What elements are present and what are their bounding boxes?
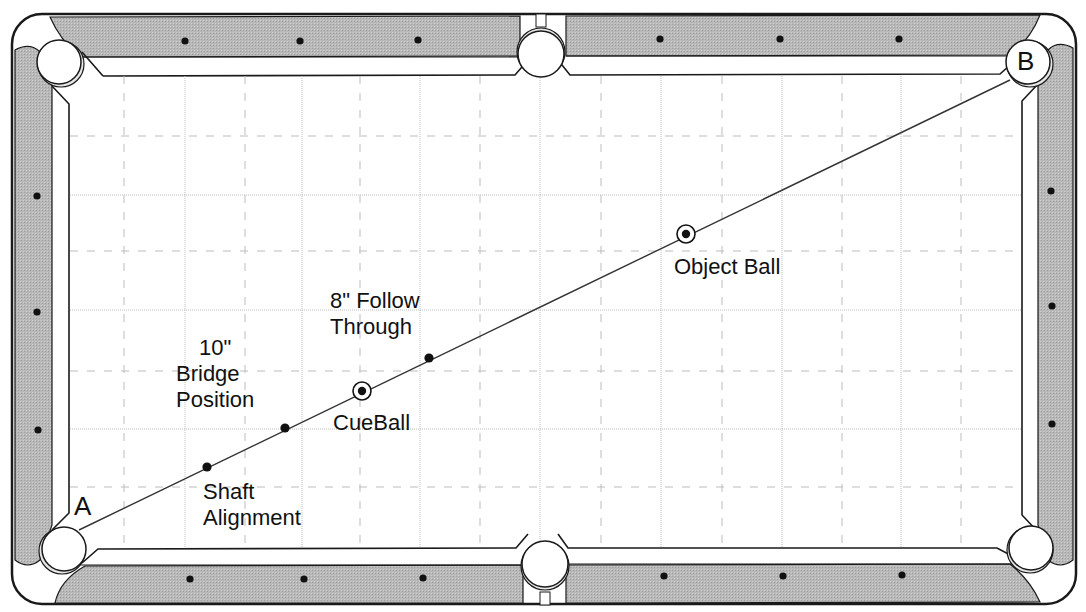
diamond-marker-icon xyxy=(186,575,193,582)
diamond-marker-icon xyxy=(33,308,40,315)
pool-table xyxy=(0,0,1086,612)
diamond-marker-icon xyxy=(300,575,307,582)
diamond-marker-icon xyxy=(296,37,303,44)
pocket-top-left xyxy=(37,40,84,87)
table-frame xyxy=(12,14,1076,604)
label-bridge-position: 10" Bridge Position xyxy=(176,335,254,413)
label-shaft-alignment: Shaft Alignment xyxy=(203,479,301,531)
diamond-marker-icon xyxy=(776,35,783,42)
rail-bottom-right xyxy=(566,564,1040,603)
pocket-bottom-right xyxy=(1007,526,1053,573)
corner-label-a: A xyxy=(74,492,91,520)
rail-bottom-left xyxy=(55,565,523,603)
rail-left xyxy=(15,46,52,565)
diamond-marker-icon xyxy=(895,35,902,42)
label-shaft-line-2: Alignment xyxy=(203,505,301,531)
label-cueball: CueBall xyxy=(333,410,410,436)
diamond-marker-icon xyxy=(34,426,41,433)
label-object-ball: Object Ball xyxy=(674,254,780,280)
pocket-bottom-left xyxy=(39,527,86,574)
corner-label-b: B xyxy=(1017,47,1034,75)
rail-top-right xyxy=(566,15,1040,56)
diamond-marker-icon xyxy=(1048,420,1055,427)
label-bridge-line-1: 10" xyxy=(176,335,254,361)
label-bridge-line-3: Position xyxy=(176,387,254,413)
shaft-point-icon xyxy=(202,462,211,471)
rail-top-left xyxy=(50,16,520,57)
label-shaft-line-1: Shaft xyxy=(203,479,301,505)
diamond-marker-icon xyxy=(660,572,667,579)
follow-point-icon xyxy=(424,353,433,362)
pool-table-diagram: A B Shaft Alignment 10" Bridge Position … xyxy=(0,0,1086,612)
label-follow-through: 8" Follow Through xyxy=(330,288,420,340)
diamond-marker-icon xyxy=(181,37,188,44)
diamond-marker-icon xyxy=(656,35,663,42)
diamond-marker-icon xyxy=(898,571,905,578)
object-ball-center-icon xyxy=(682,230,690,238)
cueball-ball-center-icon xyxy=(358,387,366,395)
diamond-marker-icon xyxy=(414,36,421,43)
label-follow-line-2: Through xyxy=(330,314,420,340)
rail-right xyxy=(1038,44,1073,565)
diamond-marker-icon xyxy=(1048,302,1055,309)
diamond-marker-icon xyxy=(779,572,786,579)
diamond-marker-icon xyxy=(1047,187,1054,194)
diamond-marker-icon xyxy=(33,192,40,199)
label-bridge-line-2: Bridge xyxy=(176,361,254,387)
label-follow-line-1: 8" Follow xyxy=(330,288,420,314)
bridge-point-icon xyxy=(280,423,289,432)
diamond-marker-icon xyxy=(419,574,426,581)
